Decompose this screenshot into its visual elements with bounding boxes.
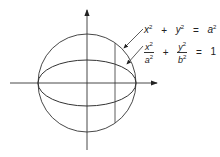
circle-equation-label: x2 + y2 = a2 bbox=[144, 24, 216, 36]
ellipse-equation-label: x2a2 + y2b2 = 1 bbox=[144, 40, 216, 65]
diagram-canvas: x2 + y2 = a2 x2a2 + y2b2 = 1 bbox=[0, 0, 220, 157]
circle-leader-arrow bbox=[124, 29, 143, 48]
ellipse-leader-arrow bbox=[127, 46, 143, 64]
